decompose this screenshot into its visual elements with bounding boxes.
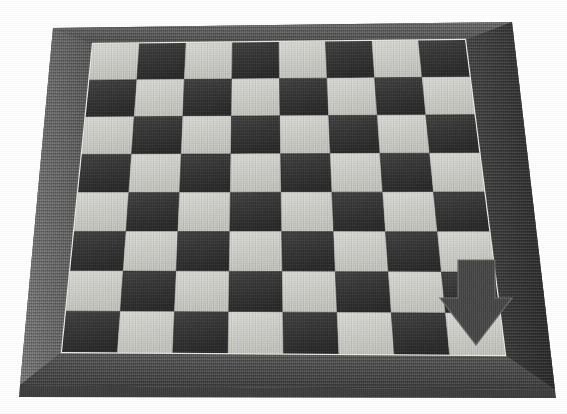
chessboard-photograph xyxy=(0,0,567,414)
photo-scene: the board, as seen from the side, e xyxy=(0,0,567,414)
playfield xyxy=(55,35,515,365)
chessboard-svg xyxy=(0,0,567,414)
